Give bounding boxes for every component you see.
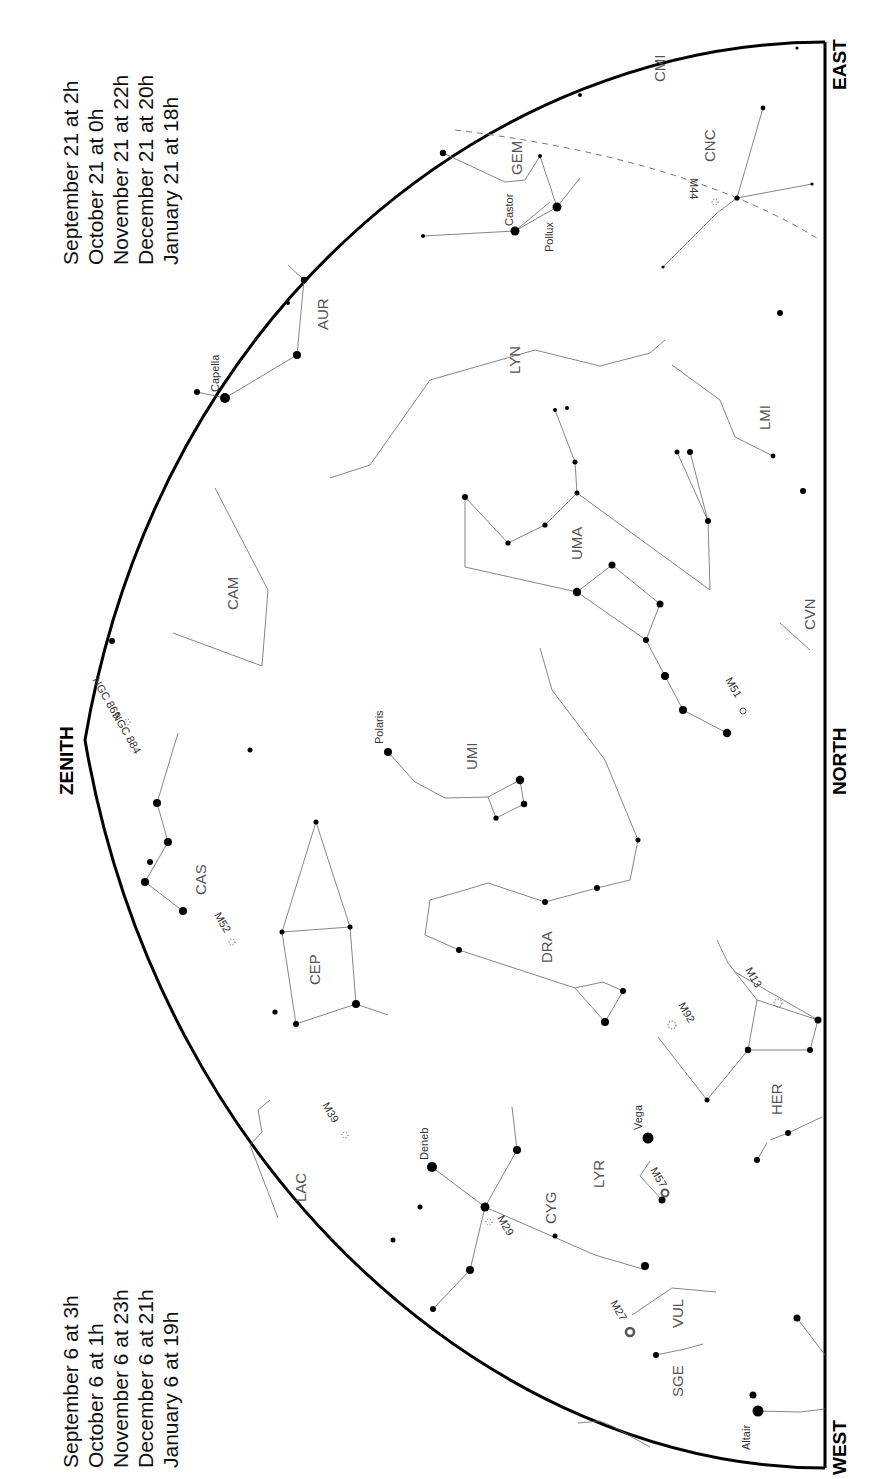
label-cas: CAS [192, 864, 209, 895]
deep-sky-markers [124, 199, 782, 1336]
label-cmi: CMI [651, 55, 668, 83]
label-m27: M27 [608, 1298, 629, 1323]
label-m52: M52 [212, 910, 233, 935]
svg-text:September 21 at 2h: September 21 at 2h [59, 81, 82, 265]
label-lyr: LYR [590, 1160, 607, 1188]
constellation-lines [145, 108, 825, 1447]
label-sge: SGE [669, 1365, 686, 1397]
svg-text:November 6 at 23h: November 6 at 23h [109, 1289, 132, 1468]
label-cam: CAM [224, 577, 241, 610]
svg-text:January 21 at 18h: January 21 at 18h [159, 97, 182, 265]
direction-west: WEST [829, 1420, 850, 1475]
label-capella: Capella [209, 354, 221, 392]
sky-boundary [85, 42, 825, 1468]
label-m44: M44 [688, 178, 700, 199]
label-m13: M13 [743, 965, 764, 990]
label-cvn: CVN [801, 598, 818, 630]
label-castor: Castor [503, 193, 515, 226]
label-m39: M39 [320, 1100, 341, 1125]
label-m51: M51 [723, 675, 744, 700]
svg-text:January 6 at 19h: January 6 at 19h [159, 1312, 182, 1468]
label-polaris: Polaris [373, 710, 385, 744]
label-lyn: LYN [506, 346, 523, 374]
label-pollux: Pollux [543, 222, 555, 252]
dates-top: September 21 at 2h October 21 at 0h Nove… [59, 75, 182, 265]
svg-text:December 21 at 20h: December 21 at 20h [134, 75, 157, 265]
label-dra: DRA [538, 931, 555, 963]
label-m29: M29 [495, 1213, 516, 1238]
svg-text:September 6 at 3h: September 6 at 3h [59, 1295, 82, 1468]
stars [109, 46, 822, 1416]
label-vul: VUL [669, 1299, 686, 1328]
label-vega: Vega [632, 1104, 644, 1130]
svg-text:November 21 at 22h: November 21 at 22h [109, 75, 132, 265]
direction-north: NORTH [829, 727, 850, 795]
label-umi: UMI [463, 743, 480, 771]
label-lac: LAC [292, 1173, 309, 1202]
label-cep: CEP [306, 954, 323, 985]
label-altair: Altair [740, 1425, 752, 1450]
label-cnc: CNC [701, 129, 718, 162]
direction-east: EAST [829, 39, 850, 90]
label-gem: GEM [508, 141, 525, 175]
svg-text:October 21 at 0h: October 21 at 0h [84, 109, 107, 265]
label-cyg: CYG [542, 1191, 559, 1224]
svg-text:October 6 at 1h: October 6 at 1h [84, 1323, 107, 1468]
label-uma: UMA [568, 527, 585, 560]
label-ngc869: NGC 869 [90, 675, 123, 721]
label-aur: AUR [314, 298, 331, 330]
svg-text:December 6 at 21h: December 6 at 21h [134, 1289, 157, 1468]
dates-bottom: September 6 at 3h October 6 at 1h Novemb… [59, 1289, 182, 1468]
direction-zenith: ZENITH [56, 726, 77, 795]
label-lmi: LMI [756, 405, 773, 430]
label-her: HER [768, 1083, 785, 1115]
label-deneb: Deneb [418, 1128, 430, 1160]
label-m92: M92 [676, 1000, 697, 1025]
star-chart: CMI CNC GEM AUR LYN LMI CAM UMA CVN CAS … [0, 0, 874, 1479]
label-m57: M57 [648, 1165, 669, 1190]
